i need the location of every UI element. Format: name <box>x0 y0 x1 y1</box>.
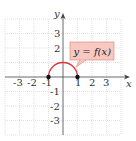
y-tick: -1 <box>50 86 60 97</box>
y-tick: -2 <box>50 101 60 112</box>
axes <box>5 16 128 135</box>
x-axis-label: x <box>126 78 132 89</box>
endpoint-right <box>75 75 79 79</box>
y-tick: 2 <box>54 43 60 54</box>
y-tick: -3 <box>50 115 60 126</box>
graph: x y -3 -2 -1 1 2 3 3 2 -1 -2 -3 y = f(x) <box>0 0 136 141</box>
endpoint-left <box>46 75 50 79</box>
y-tick: 3 <box>54 28 60 39</box>
curve-label: y = f(x) <box>73 46 112 57</box>
y-axis-label: y <box>53 8 60 19</box>
x-tick: 2 <box>89 77 95 88</box>
x-tick: -3 <box>13 77 23 88</box>
x-tick-labels: -3 -2 -1 1 2 3 <box>13 77 109 88</box>
x-tick: -2 <box>27 77 37 88</box>
x-tick: 3 <box>103 77 109 88</box>
